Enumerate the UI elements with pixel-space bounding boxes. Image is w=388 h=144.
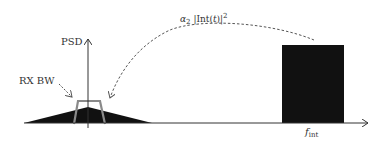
rx-bw-label: RX BW — [19, 76, 54, 86]
power-superscript: 2 — [223, 12, 227, 20]
int-open: |Int( — [193, 14, 213, 24]
interferer-spectrum — [282, 45, 344, 123]
interferer-frequency-label: fint — [305, 127, 318, 139]
alpha-subscript: 2 — [186, 18, 190, 26]
rx-bw-pointer-arrow — [59, 84, 72, 97]
psd-axis-label: PSD — [61, 37, 83, 47]
f-subscript: int — [309, 131, 319, 139]
psd-diagram: PSD RX BW α2 |Int(t)|2 fint — [0, 0, 388, 144]
interferer-power-label: α2 |Int(t)|2 — [180, 13, 228, 26]
